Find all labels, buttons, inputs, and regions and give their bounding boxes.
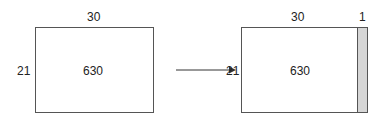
right-area-label: 630 — [290, 65, 310, 77]
right-width-label: 30 — [291, 11, 304, 23]
added-strip — [357, 27, 368, 113]
right-height-label: 21 — [226, 65, 239, 77]
right-extra-width-label: 1 — [359, 11, 366, 23]
